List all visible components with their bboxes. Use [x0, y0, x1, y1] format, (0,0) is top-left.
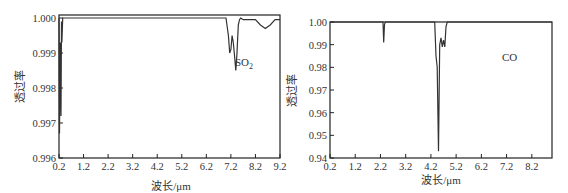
- x-axis-ticks: 0.21.22.23.24.25.26.27.28.2: [323, 154, 538, 172]
- y-tick-label: 1.00: [309, 17, 327, 28]
- y-tick-label: 0.99: [309, 40, 327, 51]
- x-tick-label: 7.2: [500, 161, 513, 172]
- y-tick-label: 0.98: [309, 62, 327, 73]
- x-tick-label: 6.2: [475, 161, 488, 172]
- y-tick-label: 0.96: [309, 108, 327, 119]
- x-axis-ticks: 0.21.22.23.24.25.26.27.28.29.2: [52, 154, 286, 172]
- so2-chart: 0.9960.9970.9980.9991.000 0.21.22.23.24.…: [0, 0, 290, 193]
- so2-annotation: SO2: [235, 56, 253, 71]
- x-tick-label: 3.2: [126, 161, 139, 172]
- x-tick-label: 4.2: [424, 161, 437, 172]
- x-tick-label: 1.2: [349, 161, 362, 172]
- y-tick-label: 0.998: [32, 83, 56, 94]
- y-tick-label: 1.000: [32, 13, 56, 24]
- so2-chart-panel: 0.9960.9970.9980.9991.000 0.21.22.23.24.…: [0, 0, 290, 193]
- x-axis-label: 波长/μm: [421, 174, 461, 186]
- x-tick-label: 2.2: [102, 161, 115, 172]
- y-axis-label: 透过率: [285, 74, 298, 107]
- so2-transmittance-line: [59, 18, 280, 134]
- x-tick-label: 0.2: [52, 161, 65, 172]
- x-tick-label: 8.2: [249, 161, 262, 172]
- co-annotation: CO: [502, 51, 517, 63]
- x-tick-label: 4.2: [151, 161, 164, 172]
- plot-frame: [330, 22, 552, 158]
- y-tick-label: 0.97: [309, 85, 327, 96]
- x-tick-label: 5.2: [450, 161, 463, 172]
- y-tick-label: 0.997: [32, 118, 56, 129]
- co-chart-panel: 0.940.950.960.970.980.991.00 0.21.22.23.…: [280, 0, 568, 193]
- x-tick-label: 3.2: [399, 161, 412, 172]
- x-axis-label: 波长/μm: [151, 180, 191, 192]
- x-tick-label: 5.2: [175, 161, 188, 172]
- y-tick-label: 0.95: [309, 130, 327, 141]
- x-tick-label: 0.2: [323, 161, 336, 172]
- x-tick-label: 6.2: [200, 161, 213, 172]
- co-transmittance-line: [330, 22, 552, 151]
- y-axis-label: 透过率: [13, 70, 26, 103]
- x-tick-label: 8.2: [525, 161, 538, 172]
- y-tick-label: 0.999: [32, 48, 56, 59]
- plot-frame: [59, 15, 280, 158]
- x-tick-label: 7.2: [224, 161, 237, 172]
- x-tick-label: 1.2: [77, 161, 90, 172]
- co-chart: 0.940.950.960.970.980.991.00 0.21.22.23.…: [280, 0, 568, 193]
- x-tick-label: 2.2: [374, 161, 387, 172]
